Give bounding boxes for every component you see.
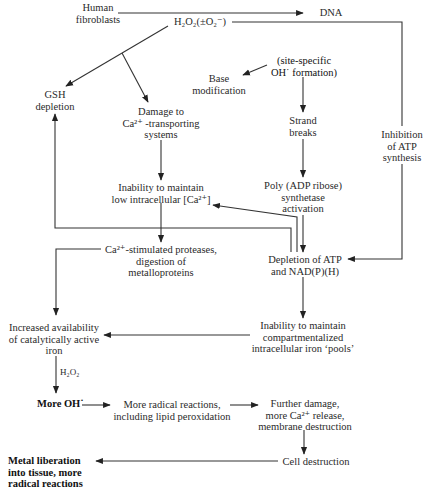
label-line: Cell destruction <box>283 456 350 467</box>
label-line: metalloproteins <box>105 267 217 279</box>
label-line: including lipid peroxidation <box>113 411 230 423</box>
label-line: Depletion of ATP <box>268 254 342 266</box>
node-h2o2: H₂O₂(±O₂⁻) <box>174 16 226 28</box>
edge-label-h2o2: H₂O₂ <box>60 367 79 377</box>
node-inhibition-atp: Inhibition of ATP synthesis <box>381 129 422 164</box>
label-line: Increased availability <box>9 322 99 334</box>
node-damage-ca-transport: Damage to Ca²⁺ -transporting systems <box>122 106 199 141</box>
label-line: Base <box>192 73 246 85</box>
label-line: GSH <box>35 89 74 101</box>
edge-oh-base-modification <box>243 65 267 75</box>
node-further-damage: Further damage, more Ca²⁺ release, membr… <box>258 398 352 433</box>
label-line: more Ca²⁺ release, <box>258 410 352 422</box>
label-line: synthesis <box>381 152 422 164</box>
label-line: Inability to maintain <box>252 320 355 332</box>
label-line: digestion of <box>105 256 217 268</box>
edge-proteases-iron <box>56 249 101 315</box>
node-depletion-atp: Depletion of ATP and NAD(P)(H) <box>268 254 342 277</box>
label-line: Damage to <box>122 106 199 118</box>
label-line: Poly (ADP ribose) <box>264 180 342 192</box>
label-line: Further damage, <box>258 398 352 410</box>
label-line: activation <box>264 203 342 215</box>
edge-inhibition-atp-depletion <box>348 164 402 259</box>
label-line: Strand <box>289 115 316 127</box>
node-site-specific-oh: (site-specific OH˙ formation) <box>271 55 337 78</box>
label-line: Ca²⁺-stimulated proteases, <box>105 244 217 256</box>
node-base-modification: Base modification <box>192 73 246 96</box>
label-line: Inhibition <box>381 129 422 141</box>
node-human-fibroblasts: Human fibroblasts <box>76 2 120 25</box>
label-line: DNA <box>320 7 343 18</box>
edge-h2o2-damage-ca <box>122 53 148 102</box>
node-more-radical: More radical reactions, including lipid … <box>113 399 230 422</box>
label-line: modification <box>192 85 246 97</box>
label-line: compartmentalized <box>252 332 355 344</box>
label-line: of catalytically active <box>9 334 99 346</box>
node-metal-liberation: Metal liberation into tissue, more radic… <box>8 455 83 490</box>
label-line: and NAD(P)(H) <box>268 266 342 278</box>
label-line: systems <box>122 129 199 141</box>
label-line: breaks <box>289 127 316 139</box>
label-line: of ATP <box>381 141 422 153</box>
node-inability-ca: Inability to maintain low intracellular … <box>111 182 210 205</box>
label-line: Metal liberation <box>8 455 83 467</box>
label-line: Inability to maintain <box>111 182 210 194</box>
label-line: depletion <box>35 101 74 113</box>
label-line: Human <box>76 2 120 14</box>
label-line: intracellular iron ‘pools’ <box>252 343 355 355</box>
node-inability-iron-pools: Inability to maintain compartmentalized … <box>252 320 355 355</box>
label-line: iron <box>9 345 99 357</box>
node-more-oh: More OH˙ <box>37 398 84 410</box>
label-line: Ca²⁺ -transporting <box>122 118 199 130</box>
label-line: membrane destruction <box>258 421 352 433</box>
label-line: radical reactions <box>8 478 83 490</box>
node-strand-breaks: Strand breaks <box>289 115 316 138</box>
edge-h2o2-gsh <box>66 26 168 86</box>
label-line: synthetase <box>264 192 342 204</box>
node-increased-iron: Increased availability of catalytically … <box>9 322 99 357</box>
node-dna: DNA <box>320 7 343 19</box>
label-line: OH˙ formation) <box>271 67 337 79</box>
label-line: into tissue, more <box>8 467 83 479</box>
label-line: More radical reactions, <box>113 399 230 411</box>
label-line: fibroblasts <box>76 14 120 26</box>
node-cell-destruction: Cell destruction <box>283 456 350 468</box>
node-poly-adp: Poly (ADP ribose) synthetase activation <box>264 180 342 215</box>
label-line: low intracellular [Ca²⁺] <box>111 194 210 206</box>
node-gsh-depletion: GSH depletion <box>35 89 74 112</box>
node-ca-proteases: Ca²⁺-stimulated proteases, digestion of … <box>105 244 217 279</box>
label-line: (site-specific <box>271 55 337 67</box>
label-line: H₂O₂(±O₂⁻) <box>174 16 226 27</box>
label-line: More OH˙ <box>37 398 84 409</box>
